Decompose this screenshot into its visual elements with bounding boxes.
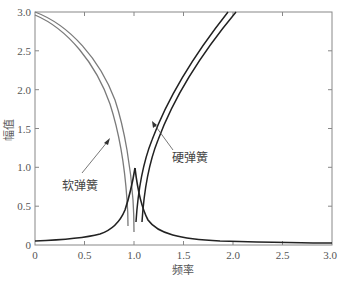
annotation-hard-spring: 硬弹簧 [152, 121, 208, 165]
hard-spring-label: 硬弹簧 [172, 150, 208, 165]
x-tick-0: 0 [32, 249, 38, 261]
y-tick-0: 0 [26, 239, 32, 251]
x-ticks [85, 12, 283, 245]
x-axis-title: 频率 [172, 263, 194, 277]
y-tick-0.5: 0.5 [17, 200, 31, 212]
y-tick-1.0: 1.0 [17, 161, 31, 173]
frequency-response-chart: 0 0.5 1.0 1.5 2.0 2.5 3.0 0 0.5 1.0 1.5 … [0, 0, 346, 281]
soft-spring-curve-outer [35, 12, 134, 232]
y-tick-labels: 0 0.5 1.0 1.5 2.0 2.5 3.0 [17, 6, 31, 251]
y-axis-title: 幅值 [3, 119, 16, 141]
x-tick-0.5: 0.5 [78, 249, 92, 261]
y-tick-1.5: 1.5 [17, 123, 31, 135]
x-tick-3.0: 3.0 [323, 249, 337, 261]
arrow-head-icon [104, 138, 110, 145]
soft-spring-label: 软弹簧 [62, 178, 98, 193]
x-tick-2.0: 2.0 [226, 249, 240, 261]
y-tick-2.0: 2.0 [17, 84, 31, 96]
y-tick-3.0: 3.0 [17, 6, 31, 18]
curves [35, 12, 332, 243]
hard-spring-curve-inner [142, 12, 236, 222]
hard-spring-curve-outer [136, 12, 228, 222]
lower-branch-right [135, 168, 332, 243]
plot-frame [35, 12, 332, 245]
annotation-soft-spring: 软弹簧 [62, 138, 110, 193]
x-tick-1.0: 1.0 [127, 249, 141, 261]
x-tick-1.5: 1.5 [177, 249, 191, 261]
soft-spring-curve-inner [35, 15, 128, 226]
x-tick-labels: 0 0.5 1.0 1.5 2.0 2.5 3.0 [32, 249, 337, 261]
y-tick-2.5: 2.5 [17, 45, 31, 57]
x-tick-2.5: 2.5 [276, 249, 290, 261]
